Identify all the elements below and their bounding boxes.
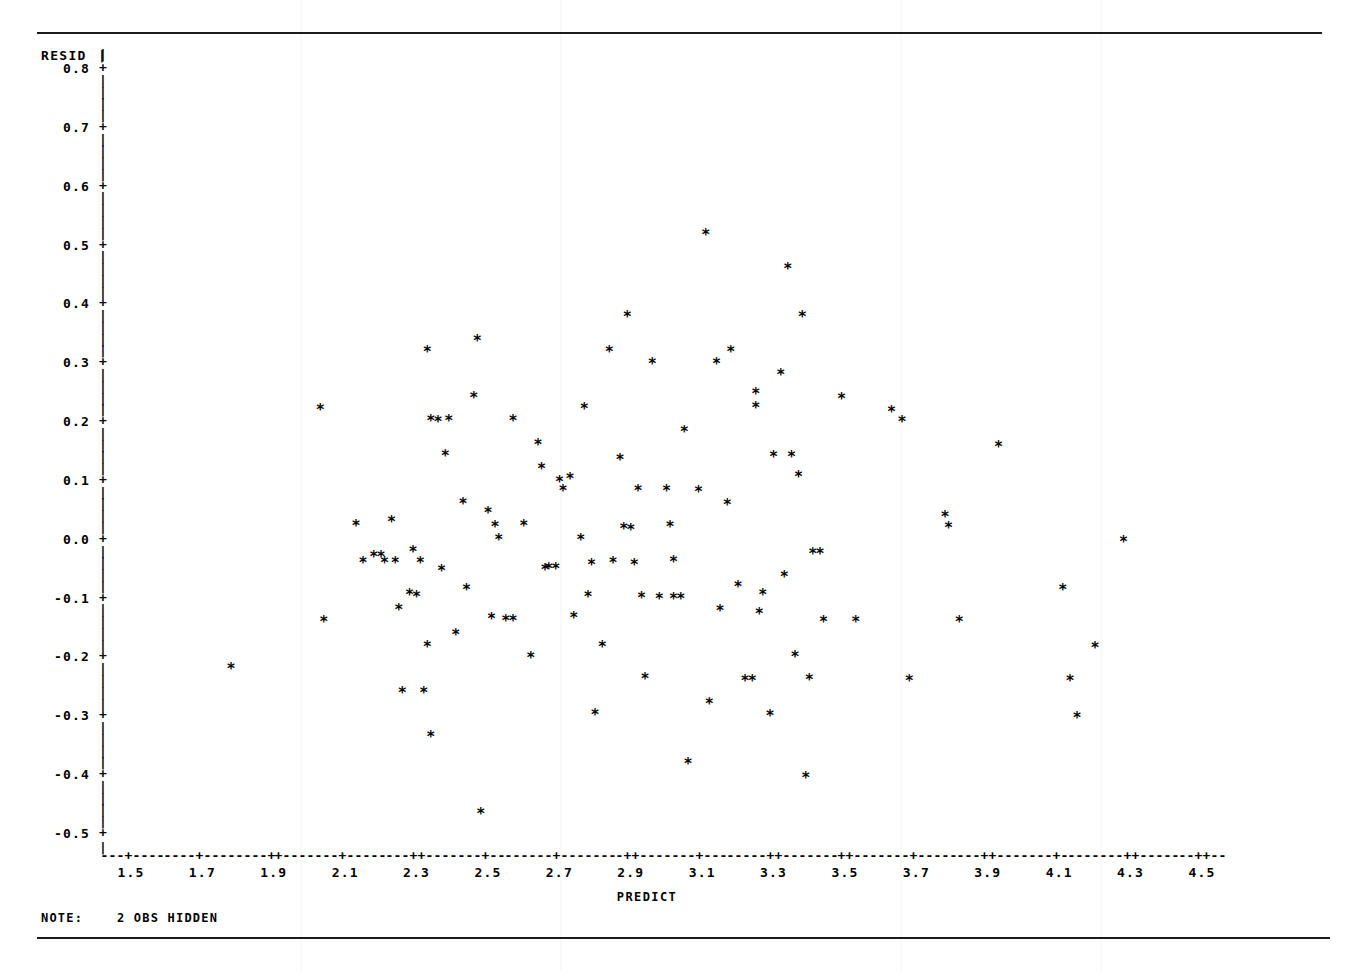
data-point: *: [569, 611, 579, 621]
data-point: *: [683, 757, 693, 767]
data-point: *: [1058, 583, 1068, 593]
data-point: *: [754, 607, 764, 617]
data-point: *: [797, 310, 807, 320]
top-horizontal-rule: [37, 32, 1322, 34]
y-axis-tick-label: 0.6: [34, 180, 90, 193]
y-axis-tick-label: -0.4: [34, 768, 90, 781]
x-axis-tick-label: 1.7: [180, 866, 224, 879]
y-axis-tick: +: [96, 414, 110, 427]
data-point: *: [351, 519, 361, 529]
data-point: *: [551, 562, 561, 572]
data-point: *: [647, 357, 657, 367]
x-axis-tick-label: 3.7: [894, 866, 938, 879]
data-point: *: [704, 697, 714, 707]
x-axis-tick-label: 1.5: [109, 866, 153, 879]
y-axis-tick-label: -0.2: [34, 650, 90, 663]
y-axis-tick-label: 0.1: [34, 474, 90, 487]
y-axis-tick-label: 0.5: [34, 239, 90, 252]
data-point: *: [419, 686, 429, 696]
y-axis-tick: +: [96, 355, 110, 368]
data-point: *: [662, 484, 672, 494]
data-point: *: [426, 730, 436, 740]
data-point: *: [537, 462, 547, 472]
data-point: *: [476, 807, 486, 817]
data-point: *: [415, 556, 425, 566]
data-point: *: [533, 438, 543, 448]
x-axis-title: PREDICT: [0, 890, 1364, 904]
x-axis-tick-label: 3.3: [752, 866, 796, 879]
x-axis-tick-label: 2.1: [323, 866, 367, 879]
scan-artifact: [900, 0, 902, 971]
y-axis-tick: +: [96, 473, 110, 486]
data-point: *: [433, 415, 443, 425]
data-point: *: [640, 672, 650, 682]
data-point: *: [836, 392, 846, 402]
y-axis-tick: +: [96, 708, 110, 721]
y-axis-tick-label: 0.0: [34, 533, 90, 546]
data-point: *: [954, 615, 964, 625]
data-point: *: [444, 414, 454, 424]
y-axis-tick: +: [96, 179, 110, 192]
data-point: *: [590, 708, 600, 718]
data-point: *: [1118, 535, 1128, 545]
y-axis-tick-label: 0.2: [34, 415, 90, 428]
y-axis-tick: +: [96, 649, 110, 662]
data-point: *: [794, 470, 804, 480]
data-point: *: [422, 345, 432, 355]
data-point: *: [319, 615, 329, 625]
data-point: *: [769, 450, 779, 460]
bottom-horizontal-rule: [37, 937, 1330, 939]
data-point: *: [494, 533, 504, 543]
x-axis-tick-label: 2.5: [466, 866, 510, 879]
data-point: *: [608, 556, 618, 566]
x-axis-tick-label: 4.1: [1037, 866, 1081, 879]
x-axis-tick-label: 2.7: [537, 866, 581, 879]
y-axis-tick: +: [96, 591, 110, 604]
data-point: *: [583, 590, 593, 600]
data-point: *: [994, 440, 1004, 450]
data-point: *: [394, 603, 404, 613]
data-point: *: [487, 612, 497, 622]
data-point: *: [412, 590, 422, 600]
data-point: *: [576, 533, 586, 543]
x-axis-tick-label: 3.1: [680, 866, 724, 879]
data-point: *: [722, 498, 732, 508]
character-scatter-plot: RESID | ||||||||||||||||||||||||||||||||…: [0, 0, 1364, 971]
data-point: *: [597, 640, 607, 650]
data-point: *: [751, 387, 761, 397]
x-axis-tick-label: 2.3: [395, 866, 439, 879]
x-axis: ---+--------+--------++-------+--------+…: [101, 849, 1242, 862]
x-axis-tick-label: 3.5: [823, 866, 867, 879]
y-axis-tick-label: -0.3: [34, 709, 90, 722]
data-point: *: [679, 425, 689, 435]
y-axis-tick-label: 0.7: [34, 121, 90, 134]
data-point: *: [483, 506, 493, 516]
data-point: *: [379, 556, 389, 566]
data-point: *: [626, 523, 636, 533]
x-axis-tick-label: 4.3: [1109, 866, 1153, 879]
data-point: *: [458, 497, 468, 507]
data-point: *: [629, 558, 639, 568]
data-point: *: [783, 262, 793, 272]
data-point: *: [604, 345, 614, 355]
data-point: *: [804, 673, 814, 683]
data-point: *: [440, 449, 450, 459]
data-point: *: [676, 592, 686, 602]
y-axis-tick-label: -0.5: [34, 827, 90, 840]
y-axis-tick-label: 0.4: [34, 297, 90, 310]
data-point: *: [1065, 674, 1075, 684]
data-point: *: [1072, 711, 1082, 721]
data-point: *: [637, 591, 647, 601]
note-text: 2 OBS HIDDEN: [117, 911, 218, 925]
data-point: *: [904, 674, 914, 684]
data-point: *: [397, 686, 407, 696]
data-point: *: [765, 709, 775, 719]
data-point: *: [390, 556, 400, 566]
data-point: *: [358, 556, 368, 566]
data-point: *: [387, 515, 397, 525]
data-point: *: [508, 614, 518, 624]
note-row: NOTE:2 OBS HIDDEN: [41, 911, 218, 925]
data-point: *: [654, 592, 664, 602]
data-point: *: [776, 368, 786, 378]
data-point: *: [711, 357, 721, 367]
